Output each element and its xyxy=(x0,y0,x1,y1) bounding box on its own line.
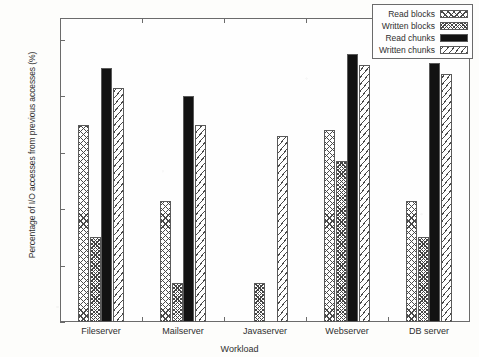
bar-javaserver-written-chunks xyxy=(277,136,288,322)
legend-swatch-dense-crosshatch xyxy=(440,22,468,30)
legend-item-written-blocks: Written blocks xyxy=(379,20,468,31)
y-axis-title: Percentage of I/O accesses from previous… xyxy=(27,5,37,305)
bar-db-server-written-chunks xyxy=(441,74,452,322)
y-tick-mark xyxy=(60,40,65,41)
x-tick-label-webserver: Webserver xyxy=(302,326,392,336)
y-tick-mark xyxy=(60,266,65,267)
bar-webserver-written-blocks xyxy=(336,161,347,322)
bar-webserver-written-chunks xyxy=(359,65,370,322)
x-tick-label-mailserver: Mailserver xyxy=(138,326,228,336)
chart-legend: Read blocksWritten blocksRead chunksWrit… xyxy=(372,4,473,59)
legend-swatch-solid-black xyxy=(440,34,468,42)
bar-fileserver-written-blocks xyxy=(90,237,101,322)
legend-item-read-chunks: Read chunks xyxy=(379,32,468,43)
bar-mailserver-read-blocks xyxy=(160,201,171,322)
y-tick-mark xyxy=(60,96,65,97)
x-axis-title: Workload xyxy=(0,344,479,354)
legend-label: Read chunks xyxy=(385,33,435,43)
x-tick-label-db-server: DB server xyxy=(384,326,474,336)
bar-fileserver-read-chunks xyxy=(101,68,112,322)
x-tick-mark xyxy=(388,317,389,322)
bar-chart-figure: Percentage of I/O accesses from previous… xyxy=(0,0,479,357)
bar-mailserver-written-chunks xyxy=(195,125,206,322)
bar-mailserver-read-chunks xyxy=(183,96,194,322)
x-tick-mark xyxy=(142,18,143,23)
legend-item-written-chunks: Written chunks xyxy=(379,44,468,55)
x-tick-label-fileserver: Fileserver xyxy=(56,326,146,336)
bar-fileserver-written-chunks xyxy=(113,88,124,322)
bar-webserver-read-chunks xyxy=(347,54,358,322)
y-tick-mark xyxy=(60,209,65,210)
x-tick-mark xyxy=(142,317,143,322)
y-tick-mark xyxy=(60,322,65,323)
x-tick-mark xyxy=(224,18,225,23)
legend-swatch-diagonal-hatch xyxy=(440,46,468,54)
legend-swatch-crosshatch xyxy=(440,10,468,18)
bar-fileserver-read-blocks xyxy=(78,125,89,322)
legend-item-read-blocks: Read blocks xyxy=(379,8,468,19)
bar-db-server-written-blocks xyxy=(418,237,429,322)
bar-webserver-read-blocks xyxy=(324,130,335,322)
x-tick-mark xyxy=(306,18,307,23)
bar-db-server-read-blocks xyxy=(406,201,417,322)
bar-db-server-read-chunks xyxy=(429,63,440,322)
bar-mailserver-written-blocks xyxy=(172,283,183,322)
x-tick-mark xyxy=(224,317,225,322)
legend-label: Read blocks xyxy=(388,9,435,19)
y-tick-mark xyxy=(60,153,65,154)
x-tick-mark xyxy=(306,317,307,322)
x-tick-label-javaserver: Javaserver xyxy=(220,326,310,336)
legend-label: Written blocks xyxy=(382,21,435,31)
bar-javaserver-written-blocks xyxy=(254,283,265,322)
legend-label: Written chunks xyxy=(379,45,435,55)
